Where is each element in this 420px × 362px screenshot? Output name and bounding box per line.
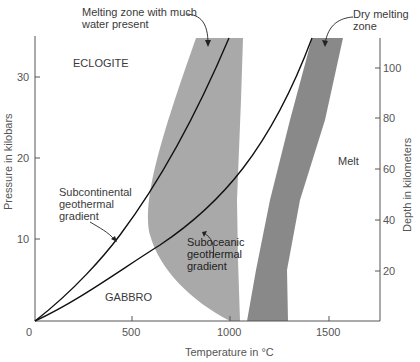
eclogite-label: ECLOGITE — [73, 57, 129, 69]
melt-label: Melt — [338, 155, 359, 167]
x-tick-500: 500 — [122, 326, 140, 338]
x-axis-title: Temperature in °C — [185, 346, 274, 358]
phase-diagram — [0, 0, 420, 362]
y2-tick-100: 100 — [383, 62, 401, 74]
y-tick-20: 20 — [17, 152, 29, 164]
subcontinental-label: Subcontinental geothermal gradient — [59, 186, 132, 222]
y-tick-10: 10 — [17, 233, 29, 245]
subcontinental-pointer — [90, 222, 115, 240]
wet-melting-zone-band — [148, 38, 243, 321]
y-tick-30: 30 — [17, 71, 29, 83]
gabbro-label: GABBRO — [105, 291, 152, 303]
x-tick-0: 0 — [26, 326, 32, 338]
dry-zone-label: Dry melting zone — [353, 8, 409, 32]
y2-tick-40: 40 — [383, 214, 395, 226]
y-axis-title: Pressure in kilobars — [2, 113, 14, 210]
y2-axis-title: Depth in kilometers — [401, 138, 413, 232]
wet-zone-label: Melting zone with much water present — [82, 6, 197, 30]
suboceanic-label: Suboceanic geothermal gradient — [187, 236, 245, 272]
x-tick-1000: 1000 — [217, 326, 241, 338]
y2-tick-20: 20 — [383, 265, 395, 277]
y2-tick-60: 60 — [383, 163, 395, 175]
x-tick-1500: 1500 — [316, 326, 340, 338]
y2-tick-80: 80 — [383, 112, 395, 124]
